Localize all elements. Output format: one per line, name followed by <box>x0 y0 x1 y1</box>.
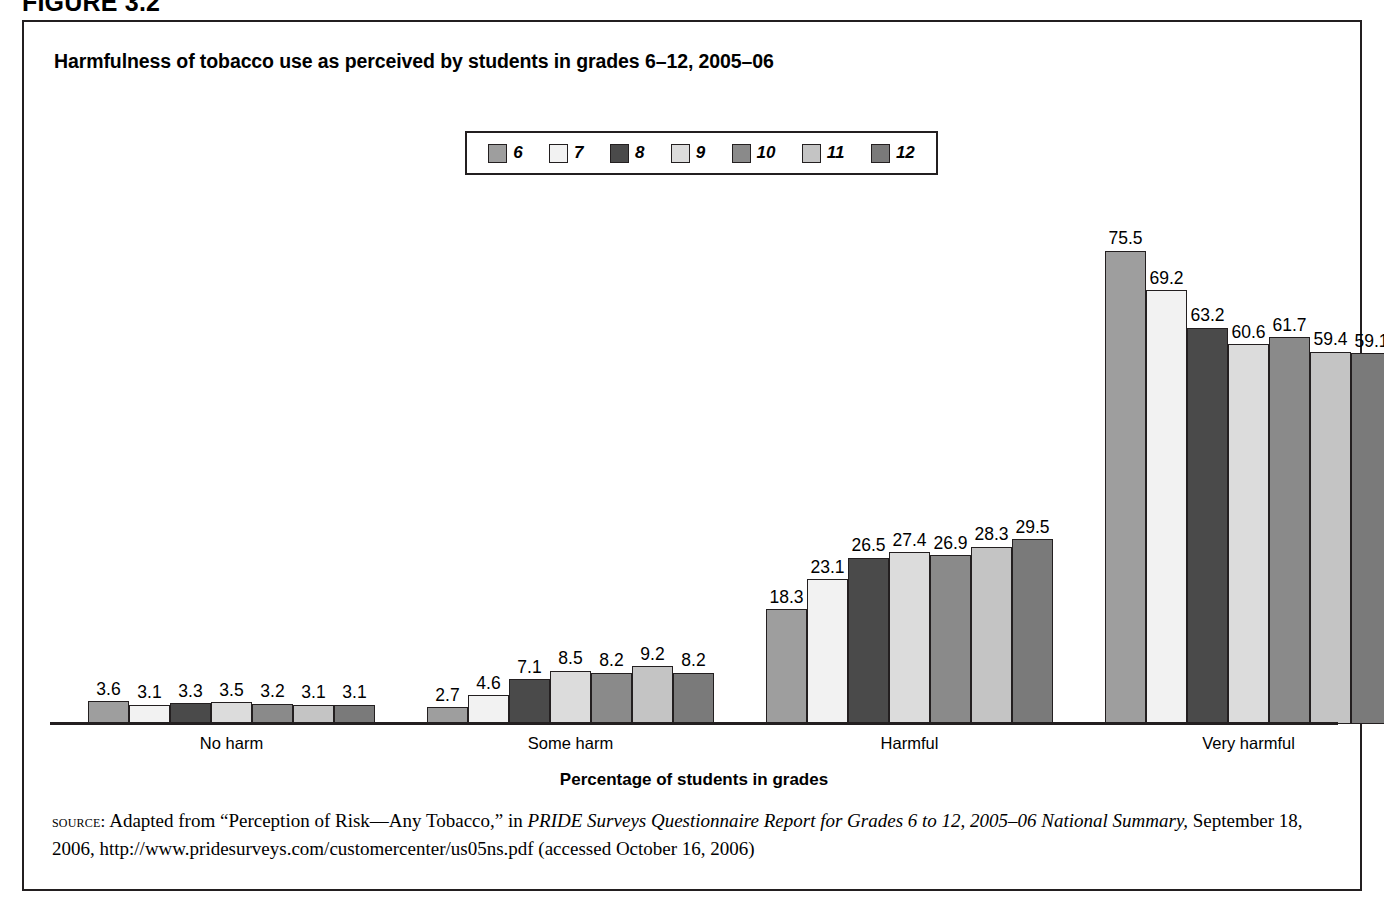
bar-grade-6-no-harm: 3.6 <box>88 102 129 724</box>
bar-rect <box>889 552 930 724</box>
bar-group-harmful: 18.323.126.527.426.928.329.5 <box>766 102 1053 724</box>
bar-rect <box>930 555 971 724</box>
bar-grade-12-some-harm: 8.2 <box>673 102 714 724</box>
x-axis-title: Percentage of students in grades <box>24 770 1364 790</box>
chart-title: Harmfulness of tobacco use as perceived … <box>54 50 774 73</box>
bar-grade-7-very-harmful: 69.2 <box>1146 102 1187 724</box>
bar-grade-10-some-harm: 8.2 <box>591 102 632 724</box>
bar-grade-8-no-harm: 3.3 <box>170 102 211 724</box>
bar-value-label: 26.5 <box>851 537 885 555</box>
bar-value-label: 3.1 <box>301 684 325 702</box>
x-axis-category-label: Harmful <box>766 734 1053 753</box>
bar-value-label: 4.6 <box>476 675 500 693</box>
bar-grade-10-harmful: 26.9 <box>930 102 971 724</box>
bar-value-label: 8.5 <box>558 650 582 668</box>
bar-rect <box>1269 337 1310 724</box>
bar-grade-10-no-harm: 3.2 <box>252 102 293 724</box>
bar-rect <box>509 679 550 724</box>
bar-value-label: 3.6 <box>96 681 120 699</box>
bar-value-label: 3.5 <box>219 682 243 700</box>
bar-value-label: 23.1 <box>810 559 844 577</box>
bar-grade-6-some-harm: 2.7 <box>427 102 468 724</box>
bar-rect <box>1187 328 1228 724</box>
source-note: source: Adapted from “Perception of Risk… <box>52 807 1334 862</box>
bar-value-label: 63.2 <box>1190 307 1224 325</box>
bar-rect <box>848 558 889 724</box>
source-label: source: <box>52 812 105 831</box>
bar-value-label: 8.2 <box>681 652 705 670</box>
bar-grade-9-some-harm: 8.5 <box>550 102 591 724</box>
bar-grade-7-harmful: 23.1 <box>807 102 848 724</box>
bar-rect <box>170 703 211 724</box>
bar-value-label: 59.1 <box>1354 333 1384 351</box>
bar-grade-11-no-harm: 3.1 <box>293 102 334 724</box>
bar-value-label: 28.3 <box>974 526 1008 544</box>
bar-rect <box>766 609 807 724</box>
x-axis-baseline <box>50 722 1338 725</box>
bar-rect <box>252 704 293 724</box>
bar-value-label: 18.3 <box>769 589 803 607</box>
bar-rect <box>1105 251 1146 724</box>
bar-group-very-harmful: 75.569.263.260.661.759.459.1 <box>1105 102 1384 724</box>
bar-rect <box>468 695 509 724</box>
bar-value-label: 60.6 <box>1231 324 1265 342</box>
bar-value-label: 3.3 <box>178 683 202 701</box>
bar-rect <box>1310 352 1351 724</box>
bar-grade-11-some-harm: 9.2 <box>632 102 673 724</box>
bar-value-label: 2.7 <box>435 687 459 705</box>
bar-value-label: 3.2 <box>260 683 284 701</box>
bar-grade-12-no-harm: 3.1 <box>334 102 375 724</box>
bar-rect <box>550 671 591 724</box>
bar-grade-11-very-harmful: 59.4 <box>1310 102 1351 724</box>
bar-value-label: 3.1 <box>137 684 161 702</box>
bar-value-label: 26.9 <box>933 535 967 553</box>
bar-rect <box>1146 290 1187 724</box>
bar-rect <box>1012 539 1053 724</box>
bar-value-label: 9.2 <box>640 646 664 664</box>
bar-grade-9-no-harm: 3.5 <box>211 102 252 724</box>
bar-rect <box>1351 353 1384 724</box>
bar-value-label: 27.4 <box>892 532 926 550</box>
source-text-pre: Adapted from “Perception of Risk—Any Tob… <box>105 810 527 831</box>
bar-value-label: 7.1 <box>517 659 541 677</box>
bar-value-label: 69.2 <box>1149 270 1183 288</box>
bar-grade-6-harmful: 18.3 <box>766 102 807 724</box>
bar-rect <box>673 673 714 724</box>
x-axis-category-label: Some harm <box>427 734 714 753</box>
bar-rect <box>807 579 848 724</box>
bar-group-some-harm: 2.74.67.18.58.29.28.2 <box>427 102 714 724</box>
bar-grade-10-very-harmful: 61.7 <box>1269 102 1310 724</box>
bar-rect <box>632 666 673 724</box>
bar-grade-6-very-harmful: 75.5 <box>1105 102 1146 724</box>
figure-frame: Harmfulness of tobacco use as perceived … <box>22 20 1362 891</box>
bar-grade-7-no-harm: 3.1 <box>129 102 170 724</box>
bar-rect <box>1228 344 1269 724</box>
bar-grade-12-very-harmful: 59.1 <box>1351 102 1384 724</box>
bar-grade-9-very-harmful: 60.6 <box>1228 102 1269 724</box>
bar-grade-12-harmful: 29.5 <box>1012 102 1053 724</box>
bar-group-no-harm: 3.63.13.33.53.23.13.1 <box>88 102 375 724</box>
figure-number: FIGURE 3.2 <box>22 0 160 12</box>
bar-value-label: 3.1 <box>342 684 366 702</box>
bar-rect <box>211 702 252 724</box>
bar-rect <box>591 673 632 724</box>
bar-rect <box>88 701 129 724</box>
bar-value-label: 29.5 <box>1015 519 1049 537</box>
bar-value-label: 75.5 <box>1108 230 1142 248</box>
bar-value-label: 59.4 <box>1313 331 1347 349</box>
bar-value-label: 8.2 <box>599 652 623 670</box>
x-axis-category-label: No harm <box>88 734 375 753</box>
bar-grade-7-some-harm: 4.6 <box>468 102 509 724</box>
bar-grade-11-harmful: 28.3 <box>971 102 1012 724</box>
bar-grade-9-harmful: 27.4 <box>889 102 930 724</box>
source-title-italic: PRIDE Surveys Questionnaire Report for G… <box>528 810 1189 831</box>
bar-grade-8-some-harm: 7.1 <box>509 102 550 724</box>
bar-grade-8-very-harmful: 63.2 <box>1187 102 1228 724</box>
bar-grade-8-harmful: 26.5 <box>848 102 889 724</box>
x-axis-category-label: Very harmful <box>1105 734 1384 753</box>
plot-area: 3.63.13.33.53.23.13.12.74.67.18.58.29.28… <box>50 102 1338 724</box>
bar-rect <box>971 547 1012 724</box>
bar-value-label: 61.7 <box>1272 317 1306 335</box>
